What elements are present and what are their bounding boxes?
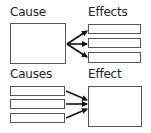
fan-out-arrows <box>67 31 87 57</box>
fan-in-arrows <box>66 91 87 118</box>
arrows-layer <box>0 0 151 133</box>
